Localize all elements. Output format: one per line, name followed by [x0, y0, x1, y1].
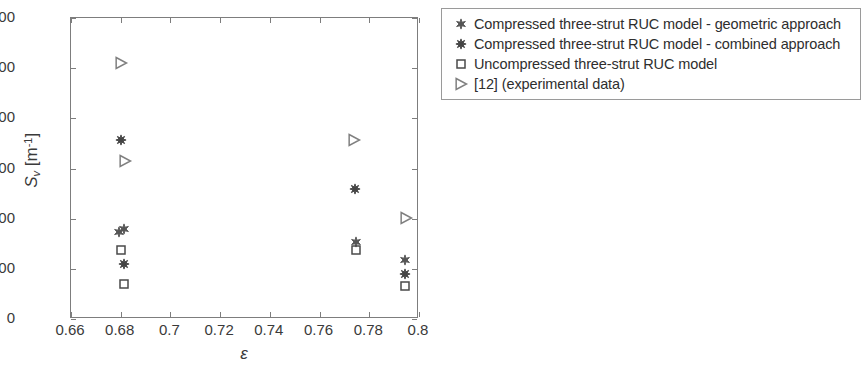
plot-frame — [70, 17, 418, 318]
x-tick-label: 0.8 — [391, 322, 445, 337]
data-point[interactable] — [111, 240, 131, 260]
data-point[interactable] — [346, 240, 366, 260]
y-tick-mark — [71, 219, 76, 220]
x-tick-mark — [220, 312, 221, 317]
x-tick-mark — [369, 312, 370, 317]
x-tick-mark — [320, 18, 321, 23]
x-tick-mark — [71, 312, 72, 317]
x-tick-label: 0.74 — [242, 322, 296, 337]
x-tick-mark — [220, 18, 221, 23]
y-tick-mark — [71, 118, 76, 119]
legend-item[interactable]: Compressed three-strut RUC model - combi… — [448, 34, 854, 54]
y-axis-label-subscript: v — [30, 171, 42, 177]
x-tick-mark — [170, 312, 171, 317]
x-tick-label: 0.72 — [192, 322, 246, 337]
data-point[interactable] — [395, 276, 415, 296]
y-axis-label-exponent: -1 — [22, 138, 34, 148]
legend-item-label: Compressed three-strut RUC model - combi… — [474, 37, 840, 52]
legend-marker-six-pointed-star-icon — [448, 13, 474, 35]
x-tick-mark — [71, 18, 72, 23]
x-tick-mark — [419, 18, 420, 23]
x-tick-label: 0.76 — [292, 322, 346, 337]
x-tick-label: 0.78 — [341, 322, 395, 337]
y-axis-label: Sv [m-1] — [22, 100, 43, 220]
x-axis-label: ε — [70, 344, 418, 364]
legend-box: Compressed three-strut RUC model - geome… — [441, 8, 861, 100]
x-tick-label: 0.68 — [93, 322, 147, 337]
y-tick-mark — [71, 319, 76, 320]
data-point[interactable] — [344, 178, 366, 200]
legend-item-label: Uncompressed three-strut RUC model — [474, 57, 717, 72]
x-tick-label: 0.7 — [142, 322, 196, 337]
data-point[interactable] — [113, 218, 135, 240]
x-tick-label: 0.66 — [43, 322, 97, 337]
y-axis-label-unit-close: ] — [22, 133, 41, 138]
x-tick-mark — [270, 312, 271, 317]
y-axis-label-unit-open: [m — [22, 147, 41, 171]
x-tick-mark — [320, 312, 321, 317]
data-point[interactable] — [112, 148, 138, 174]
y-tick-label: 4000 — [0, 109, 15, 124]
x-tick-mark — [121, 18, 122, 23]
y-tick-label: 3000 — [0, 160, 15, 175]
y-tick-mark — [412, 319, 417, 320]
y-tick-mark — [71, 169, 76, 170]
data-point[interactable] — [108, 50, 134, 76]
scatter-plot: Sv [m-1] ε 01000200030004000500060000.66… — [0, 0, 440, 371]
y-tick-mark — [412, 169, 417, 170]
x-tick-mark — [170, 18, 171, 23]
y-tick-label: 0 — [7, 310, 15, 325]
y-tick-mark — [412, 118, 417, 119]
legend-item[interactable]: Uncompressed three-strut RUC model — [448, 54, 854, 74]
data-point[interactable] — [341, 127, 367, 153]
x-tick-mark — [419, 312, 420, 317]
y-tick-mark — [71, 269, 76, 270]
legend-marker-open-right-triangle-icon — [448, 71, 474, 97]
y-tick-label: 6000 — [0, 9, 15, 24]
y-tick-mark — [412, 18, 417, 19]
legend-marker-eight-pointed-star-icon — [448, 33, 474, 55]
legend-item[interactable]: Compressed three-strut RUC model - geome… — [448, 14, 854, 34]
x-tick-mark — [270, 18, 271, 23]
data-point[interactable] — [393, 205, 419, 231]
legend-item-label: [12] (experimental data) — [474, 77, 625, 92]
data-point[interactable] — [114, 274, 134, 294]
y-tick-mark — [412, 68, 417, 69]
y-tick-label: 1000 — [0, 260, 15, 275]
legend-item-label: Compressed three-strut RUC model - geome… — [474, 17, 841, 32]
x-tick-mark — [121, 312, 122, 317]
y-tick-label: 5000 — [0, 59, 15, 74]
legend-item[interactable]: [12] (experimental data) — [448, 74, 854, 94]
y-axis-label-symbol: S — [22, 176, 41, 187]
y-tick-mark — [71, 68, 76, 69]
x-tick-mark — [369, 18, 370, 23]
figure-root: Sv [m-1] ε 01000200030004000500060000.66… — [0, 0, 867, 371]
y-tick-label: 2000 — [0, 210, 15, 225]
